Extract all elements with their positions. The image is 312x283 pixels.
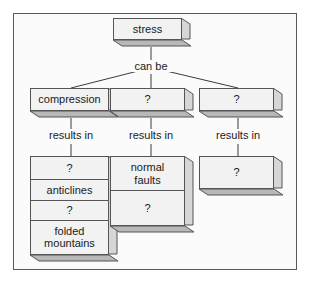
- node-compression-label: compression: [38, 93, 100, 105]
- box-bottom-shadow: [30, 110, 118, 118]
- node-branch-right[interactable]: ?: [199, 88, 283, 118]
- connector-label-results-in-left: results in: [38, 129, 104, 141]
- outcome-row-label: ?: [66, 162, 72, 174]
- box-side-shadow: [273, 88, 283, 111]
- box-side-shadow: [184, 88, 194, 111]
- node-stress-label: stress: [133, 23, 162, 35]
- outcome-row[interactable]: ?: [31, 157, 108, 180]
- node-branch-middle[interactable]: ?: [110, 88, 194, 118]
- outcome-row[interactable]: normal faults: [111, 157, 184, 191]
- box-bottom-shadow: [113, 39, 191, 47]
- box-bottom-shadow: [110, 225, 194, 233]
- box-side-shadow: [273, 156, 283, 189]
- box-bottom-shadow: [199, 110, 283, 118]
- connector-label-can-be: can be: [128, 60, 174, 72]
- outcome-stack-left[interactable]: ? anticlines ? folded mountains: [30, 156, 118, 262]
- box-bottom-shadow: [110, 110, 194, 118]
- box-bottom-shadow: [30, 254, 118, 262]
- box-bottom-shadow: [199, 188, 283, 196]
- outcome-row-label: ?: [233, 166, 239, 178]
- outcome-row[interactable]: ?: [111, 191, 184, 225]
- node-face: stress: [113, 18, 182, 40]
- outcome-row-label: folded mountains: [44, 225, 95, 250]
- node-compression[interactable]: compression: [30, 88, 118, 118]
- connector-label-results-in-right: results in: [205, 129, 271, 141]
- connector-label-results-in-middle: results in: [118, 129, 184, 141]
- box-side-shadow: [181, 18, 191, 40]
- outcome-row[interactable]: folded mountains: [31, 221, 108, 254]
- outcome-row[interactable]: anticlines: [31, 180, 108, 202]
- outcome-row-label: ?: [144, 202, 150, 214]
- outcome-row-label: anticlines: [47, 184, 93, 196]
- outcome-stack-middle[interactable]: normal faults ?: [110, 156, 194, 233]
- diagram-canvas: stress can be compression ?: [13, 13, 297, 270]
- node-stress[interactable]: stress: [113, 18, 191, 47]
- stack-face: ? anticlines ? folded mountains: [30, 156, 109, 255]
- outcome-row[interactable]: ?: [31, 201, 108, 221]
- node-face: ?: [199, 88, 274, 111]
- outcome-row-label: normal faults: [131, 161, 165, 186]
- node-face: ?: [110, 88, 185, 111]
- stack-face: normal faults ?: [110, 156, 185, 226]
- box-side-shadow: [184, 156, 194, 226]
- node-branch-middle-label: ?: [144, 93, 150, 105]
- node-branch-right-label: ?: [233, 93, 239, 105]
- node-face: compression: [30, 88, 109, 111]
- outcome-stack-right[interactable]: ?: [199, 156, 283, 196]
- stack-face: ?: [199, 156, 274, 189]
- outcome-row-label: ?: [66, 204, 72, 216]
- outcome-row[interactable]: ?: [200, 157, 273, 188]
